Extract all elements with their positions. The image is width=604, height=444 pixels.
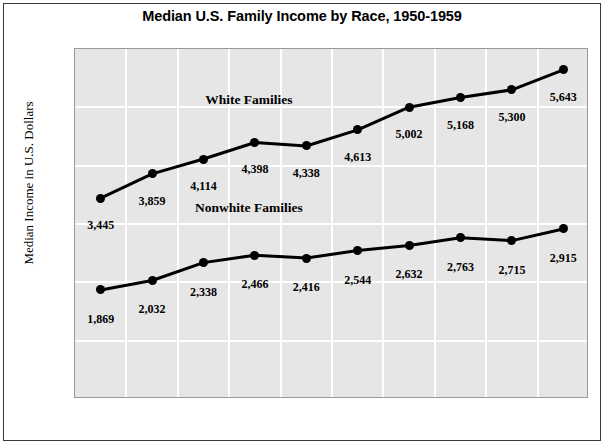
data-point-label: 4,114 [190,179,216,194]
line-nonwhite-families [101,229,564,290]
y-axis-title: Median Income in U.S. Dollars [21,58,37,308]
chart-figure: Median U.S. Family Income by Race, 1950-… [0,0,604,444]
data-point-label: 3,445 [87,218,114,233]
data-point-label: 2,544 [344,273,371,288]
data-point-marker [405,103,414,112]
data-point-marker [250,251,259,260]
data-point-marker [96,194,105,203]
data-point-label: 4,338 [293,166,320,181]
data-point-label: 5,168 [447,118,474,133]
data-point-label: 2,338 [190,285,217,300]
data-point-label: 2,032 [139,302,166,317]
series-annotation: White Families [205,92,292,108]
series-annotation: Nonwhite Families [195,200,303,216]
data-point-marker [148,169,157,178]
data-point-marker [302,254,311,263]
data-point-marker [405,241,414,250]
data-point-label: 2,715 [498,263,525,278]
data-point-label: 4,613 [344,150,371,165]
data-point-label: 3,859 [139,194,166,209]
data-point-label: 2,466 [241,277,268,292]
data-point-marker [456,93,465,102]
data-point-label: 5,300 [498,110,525,125]
data-point-label: 1,869 [87,312,114,327]
data-point-marker [148,276,157,285]
data-point-marker [199,155,208,164]
data-point-label: 2,915 [550,251,577,266]
data-point-label: 2,416 [293,280,320,295]
data-point-label: 4,398 [241,162,268,177]
plot-area: 3,4453,8594,1144,3984,3384,6135,0025,168… [74,48,588,398]
data-point-label: 2,632 [396,267,423,282]
data-point-label: 2,763 [447,260,474,275]
chart-title: Median U.S. Family Income by Race, 1950-… [0,8,604,24]
data-point-label: 5,002 [396,127,423,142]
data-point-label: 5,643 [550,90,577,105]
line-white-families [101,70,564,198]
series-lines [75,49,589,399]
